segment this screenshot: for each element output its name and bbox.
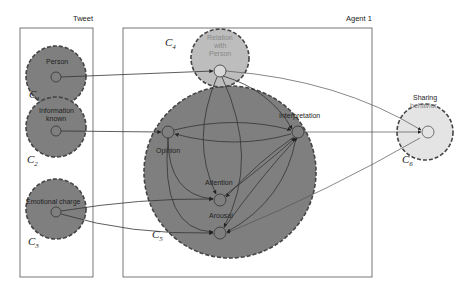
cluster-c2-label: C2: [27, 153, 38, 168]
cluster-c4: Relation with Person C4: [165, 29, 249, 87]
node-label-relation: Relation: [207, 34, 233, 41]
cluster-c3: Emotional charge C3: [26, 179, 86, 250]
cluster-c6: Sharing behavior C6: [397, 94, 453, 168]
node-label-with: with: [213, 42, 227, 49]
node-label-behavior: behavior: [410, 102, 438, 109]
node-label-sharing: Sharing: [413, 94, 437, 102]
cluster-c3-label: C3: [28, 235, 39, 250]
node-label-emotional-charge: Emotional charge: [26, 198, 81, 206]
node-label-attention: Attention: [205, 179, 233, 186]
node-label-known: known: [46, 115, 66, 122]
node-relation-with-person[interactable]: [214, 65, 226, 77]
node-label-person: Person: [46, 58, 68, 65]
cluster-c4-label: C4: [165, 36, 176, 51]
cluster-c2: Information known C2: [26, 97, 86, 168]
cluster-c5-label: C5: [152, 228, 163, 243]
agent-model-diagram: Tweet Agent 1 Person C1 Information know…: [0, 0, 472, 292]
node-label-person2: Person: [209, 50, 231, 57]
node-label-information: Information: [39, 107, 74, 114]
tweet-title: Tweet: [73, 14, 94, 23]
agent-title: Agent 1: [346, 14, 372, 23]
